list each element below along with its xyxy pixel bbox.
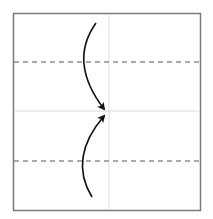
origami-diagram bbox=[0, 0, 213, 219]
diagram-svg bbox=[0, 0, 213, 219]
paper-square bbox=[14, 14, 201, 211]
